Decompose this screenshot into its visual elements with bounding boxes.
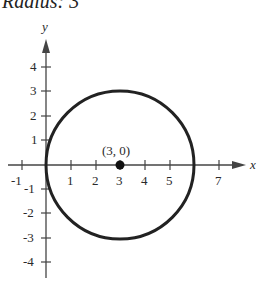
y-tick-labels: 4 3 2 1 -1 -2 -3 -4 [23, 59, 38, 269]
x-tick-label: 3 [116, 173, 123, 188]
y-tick-label: -4 [23, 254, 34, 269]
x-tick-label: 4 [141, 173, 148, 188]
y-tick-label: 3 [30, 83, 37, 98]
y-tick-label: -1 [24, 181, 35, 196]
x-tick-label: 2 [92, 173, 99, 188]
x-tick-label: 5 [166, 173, 173, 188]
y-axis-arrow-icon [42, 39, 50, 53]
y-tick-label: -2 [23, 205, 34, 220]
graph: Radius: 3 x y -1 1 2 3 4 5 7 [0, 0, 263, 284]
x-axis-arrow-icon [232, 161, 246, 169]
x-tick-label: -1 [11, 173, 22, 188]
center-point [116, 161, 125, 170]
x-axis-label: x [249, 157, 256, 172]
center-point-label: (3, 0) [102, 143, 130, 158]
y-tick-label: -3 [23, 230, 34, 245]
y-tick-label: 4 [30, 59, 37, 74]
x-tick-label: 1 [67, 173, 74, 188]
y-tick-label: 2 [30, 108, 37, 123]
graph-title: Radius: 3 [1, 0, 79, 12]
x-tick-label: 7 [215, 173, 222, 188]
y-axis-label: y [40, 19, 48, 34]
y-tick-label: 1 [31, 132, 38, 147]
